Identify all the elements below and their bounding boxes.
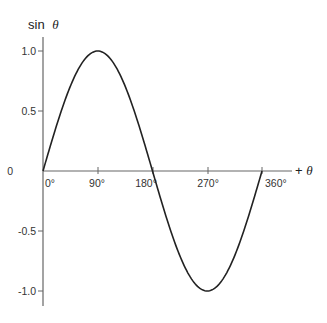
x-axis-title: + θ (295, 163, 313, 178)
sine-chart: 1.0 0.5 0 -0.5 -1.0 0° 90° 180° 270° 360… (0, 0, 327, 323)
x-tick-label: 180° (135, 177, 157, 189)
x-tick-labels: 0° 90° 180° 270° 360° (45, 177, 287, 189)
x-tick-label: 0° (45, 177, 55, 189)
y-axis-title-text: sin (28, 17, 45, 32)
y-tick-label: 0 (7, 165, 13, 177)
theta-symbol: θ (306, 163, 313, 178)
x-tick-label: 360° (265, 177, 287, 189)
y-axis-title: sin θ (28, 17, 59, 32)
y-tick-label: -0.5 (18, 225, 36, 237)
theta-symbol: θ (52, 17, 59, 32)
y-tick-labels: 1.0 0.5 0 -0.5 -1.0 (7, 45, 36, 297)
x-tick-label: 90° (89, 177, 105, 189)
x-axis-title-sign: + (295, 163, 303, 178)
y-ticks (38, 51, 43, 291)
x-tick-label: 270° (197, 177, 219, 189)
y-tick-label: 0.5 (21, 105, 36, 117)
y-tick-label: -1.0 (18, 285, 36, 297)
y-tick-label: 1.0 (21, 45, 36, 57)
